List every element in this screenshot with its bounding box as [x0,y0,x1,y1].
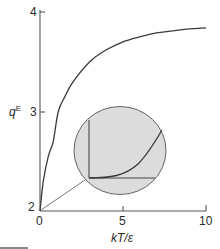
inset-leader-line [41,180,85,210]
chart: 4 3 2 0 5 10 qE kT/ε [0,0,220,249]
x-axis-title: kT/ε [111,231,134,245]
y-tick-label-3: 3 [30,105,37,119]
inset-magnifier [74,107,166,195]
y-axis-title: qE [9,104,21,119]
x-tick-label-10: 10 [199,214,213,228]
x-axis [40,205,206,211]
x-tick-label-5: 5 [119,214,126,228]
y-axis [40,10,45,211]
x-tick-label-0: 0 [36,214,43,228]
y-tick-label-4: 4 [30,5,37,19]
y-tick-label-2: 2 [28,200,35,214]
